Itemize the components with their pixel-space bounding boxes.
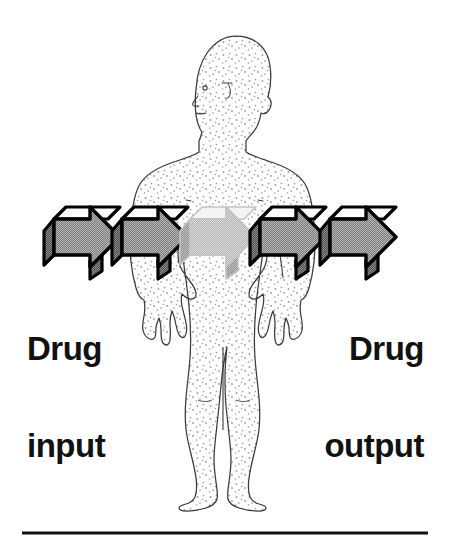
arrow-top-bevel <box>122 207 188 219</box>
drug-output-label-line1: Drug <box>324 333 424 365</box>
drug-input-label-line1: Drug <box>27 333 105 365</box>
arrow-top-bevel <box>260 207 326 219</box>
drug-input-label: Drug input <box>27 268 105 527</box>
arrow-top-bevel <box>54 207 120 219</box>
arrow-top-bevel <box>330 207 396 219</box>
skin-stipple-texture <box>110 20 340 530</box>
drug-output-label: Drug output <box>324 268 424 527</box>
human-body-silhouette <box>110 20 340 530</box>
drug-input-label-line2: input <box>27 430 105 462</box>
drug-output-label-line2: output <box>324 430 424 462</box>
illustration-canvas: Drug input Drug output <box>0 0 468 549</box>
arrow-top-bevel <box>190 207 256 219</box>
